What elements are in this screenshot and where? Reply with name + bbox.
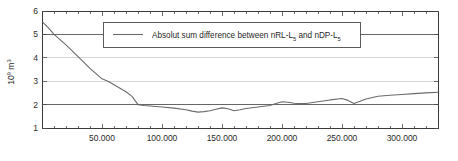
x-tick-label: 150.000: [207, 133, 238, 143]
legend-text-part-0: Absolut sum difference between nRL-L: [152, 31, 293, 40]
legend-text-part-3: 5: [338, 36, 341, 42]
y-tick-label: 4: [33, 53, 38, 63]
line-chart: 109 m3 50.000100.000150.000200.000250.00…: [0, 0, 458, 161]
x-tick-label: 200.000: [267, 133, 298, 143]
y-axis-title: 109 m3: [6, 59, 16, 84]
y-tick-label: 3: [33, 76, 38, 86]
y-axis-title-unit: m: [6, 63, 16, 70]
x-tick-label: 250.000: [327, 133, 358, 143]
x-tick-label: 50.000: [89, 133, 115, 143]
y-tick-label: 6: [33, 6, 38, 16]
y-tick-label: 5: [33, 29, 38, 39]
svg-text:109 m3: 109 m3: [6, 59, 16, 84]
chart-figure: 109 m3 50.000100.000150.000200.000250.00…: [0, 0, 458, 161]
legend[interactable]: Absolut sum difference between nRL-L5 an…: [103, 22, 360, 47]
y-tick-label: 2: [33, 100, 38, 110]
legend-text-part-2: and nDP-L: [296, 31, 338, 40]
x-tick-label: 300.000: [387, 133, 418, 143]
y-axis-title-base: 10: [6, 75, 16, 85]
x-tick-label: 100.000: [147, 133, 178, 143]
y-axis-title-unit-exponent: 3: [6, 59, 12, 62]
y-tick-label: 1: [33, 123, 38, 133]
